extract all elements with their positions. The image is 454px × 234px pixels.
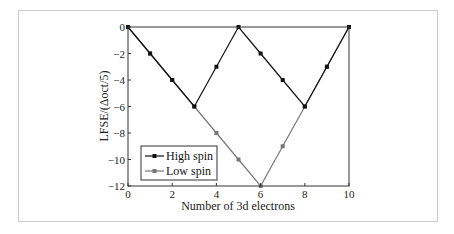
data-point-marker	[325, 65, 329, 69]
legend-low-spin-marker-icon	[153, 169, 157, 173]
legend-label-high-spin: High spin	[166, 149, 213, 163]
legend-high-spin-marker-icon	[153, 154, 157, 158]
data-point-marker	[214, 65, 218, 69]
x-tick-label: 8	[302, 188, 308, 200]
y-tick-label: −8	[113, 127, 125, 139]
series-line-high-spin	[128, 27, 349, 107]
data-point-marker	[303, 105, 307, 109]
y-axis-label: LFSE/(Δoct/5)	[97, 70, 111, 141]
data-point-marker	[259, 52, 263, 56]
data-point-marker	[170, 78, 174, 82]
y-tick-label: −4	[113, 74, 125, 86]
data-point-marker	[237, 158, 241, 162]
y-tick-label: −6	[113, 101, 125, 113]
data-point-marker	[148, 52, 152, 56]
y-tick-label: −12	[108, 180, 125, 192]
x-tick-label: 2	[169, 188, 175, 200]
data-point-marker	[192, 105, 196, 109]
data-point-marker	[281, 144, 285, 148]
lfse-line-chart: 02468100−2−4−6−8−10−12 Number of 3d elec…	[0, 0, 454, 234]
x-axis-label: Number of 3d electrons	[181, 199, 295, 213]
y-tick-label: 0	[120, 21, 126, 33]
x-tick-label: 0	[125, 188, 131, 200]
y-tick-label: −2	[113, 48, 125, 60]
legend: High spin Low spin	[141, 146, 217, 180]
x-tick-label: 10	[344, 188, 356, 200]
data-point-marker	[281, 78, 285, 82]
y-tick-label: −10	[108, 154, 126, 166]
legend-label-low-spin: Low spin	[166, 164, 211, 178]
data-point-marker	[214, 131, 218, 135]
